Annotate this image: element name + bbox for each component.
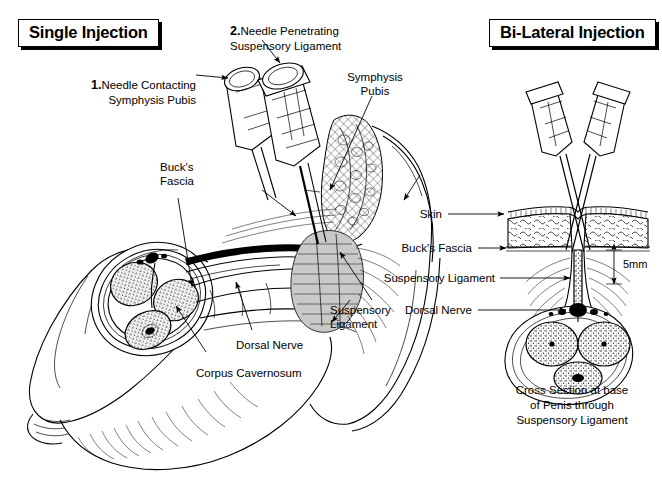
label-corpus-cavernosum-left: Corpus Cavernosum (196, 366, 346, 380)
panel-title-bilateral-injection: Bi-Lateral Injection (489, 19, 656, 47)
skin-layer (508, 207, 648, 219)
callout-needle-contacting: 1.Needle Contacting Symphysis Pubis (56, 64, 196, 107)
bilateral-syringes (526, 82, 630, 252)
label-bucks-fascia-right: Buck's Fascia (378, 241, 472, 255)
right-panel-leaders (448, 214, 570, 310)
subcutaneous-fat-layer (508, 214, 648, 248)
panel-title-single-injection: Single Injection (18, 19, 159, 47)
bucks-fascia-sheet (222, 209, 336, 243)
symphysis-pubis-bone (321, 115, 382, 247)
right-panel-artwork (448, 82, 650, 405)
syringe-needle-penetrating (258, 58, 326, 244)
label-symphysis-pubis-left: Symphysis Pubis (338, 70, 412, 98)
bucks-fascia-line (506, 247, 650, 251)
step-number-2: 2. (230, 24, 240, 38)
callout-needle-penetrating: 2.Needle Penetrating Suspensory Ligament (230, 10, 400, 53)
suspensory-ligament-column (526, 247, 630, 324)
label-skin-right: Skin (398, 207, 442, 221)
shaft-cross-section (71, 221, 232, 376)
caption-cross-section: Cross Section at base of Penis through S… (487, 383, 657, 428)
callout-needle-contacting-text: Needle Contacting Symphysis Pubis (101, 79, 196, 106)
bucks-fascia-band (186, 248, 330, 279)
penis-shaft-outline (28, 248, 332, 470)
measure-5mm (606, 250, 622, 284)
illustration-figure: Single Injection Bi-Lateral Injection 1.… (0, 0, 662, 492)
syringe-right (566, 82, 630, 252)
syringe-left (526, 82, 590, 252)
label-bucks-fascia-left: Buck's Fascia (160, 160, 220, 188)
callout-needle-penetrating-text: Needle Penetrating Suspensory Ligament (230, 25, 341, 52)
syringe-needle-contacting (222, 63, 276, 200)
step-number-1: 1. (91, 78, 101, 92)
fascia-striations (348, 248, 400, 354)
label-suspensory-ligament-right: Suspensory Ligament (362, 271, 495, 285)
label-dorsal-nerve-left: Dorsal Nerve (236, 338, 336, 352)
label-measurement-5mm: 5mm (623, 258, 647, 270)
label-dorsal-nerve-right: Dorsal Nerve (378, 303, 472, 317)
